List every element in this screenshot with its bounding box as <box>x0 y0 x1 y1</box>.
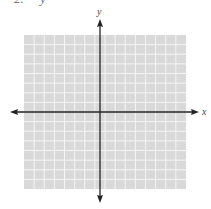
x-axis-arrow-left <box>10 109 18 115</box>
x-axis-label: x <box>201 106 207 117</box>
y-axis-arrow-down <box>97 195 103 203</box>
y-axis-label: y <box>96 6 102 17</box>
coordinate-plane: x y <box>0 0 211 209</box>
y-axis-arrow-up <box>97 19 103 27</box>
x-axis-arrow-right <box>191 109 199 115</box>
